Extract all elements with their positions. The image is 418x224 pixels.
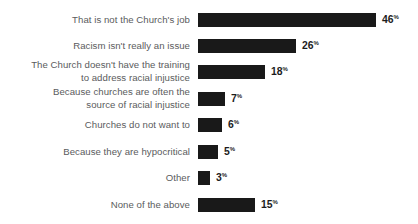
bar [198, 171, 210, 185]
bar-zone: 7% [198, 92, 242, 106]
bar-row: Because churches are often the source of… [0, 92, 418, 106]
bar-value-number: 26 [302, 40, 314, 51]
bar-row: Because they are hypocritical5% [0, 145, 418, 159]
percent-sign: % [314, 40, 319, 46]
bar-value-number: 46 [382, 14, 394, 25]
bar [198, 13, 376, 27]
percent-sign: % [394, 14, 399, 20]
bar-zone: 15% [198, 198, 278, 212]
bar-row: That is not the Church's job46% [0, 13, 418, 27]
bar-value-label: 5% [224, 145, 235, 159]
bar-value-number: 18 [271, 66, 283, 77]
bar-zone: 5% [198, 145, 235, 159]
bar-value-label: 3% [216, 171, 227, 185]
bar-row: Other3% [0, 171, 418, 185]
bar-value-number: 15 [261, 199, 273, 210]
bar-category-label: Racism isn't really an issue [0, 39, 190, 53]
bar-zone: 6% [198, 118, 239, 132]
bar-category-label: That is not the Church's job [0, 13, 190, 27]
bar-row: Churches do not want to6% [0, 118, 418, 132]
bar [198, 92, 225, 106]
percent-sign: % [283, 66, 288, 72]
bar-row: Racism isn't really an issue26% [0, 39, 418, 53]
bar-zone: 18% [198, 65, 288, 79]
bar-value-label: 7% [231, 92, 242, 106]
bar-value-label: 6% [228, 118, 239, 132]
percent-sign: % [234, 119, 239, 125]
bar [198, 65, 265, 79]
bar-row: None of the above15% [0, 198, 418, 212]
bar-value-label: 18% [271, 65, 288, 79]
bar [198, 39, 296, 53]
bar-category-label: Because they are hypocritical [0, 145, 190, 159]
bar-category-label: The Church doesn't have the training to … [0, 59, 190, 85]
bar-category-label: Churches do not want to [0, 118, 190, 132]
bar-category-label: Other [0, 171, 190, 185]
bar-value-label: 15% [261, 198, 278, 212]
bar-row: The Church doesn't have the training to … [0, 65, 418, 79]
bar-zone: 46% [198, 13, 399, 27]
bar-value-label: 26% [302, 39, 319, 53]
bar-zone: 3% [198, 171, 227, 185]
bar [198, 118, 222, 132]
percent-sign: % [237, 93, 242, 99]
percent-sign: % [230, 146, 235, 152]
bar-chart: That is not the Church's job46%Racism is… [0, 0, 418, 224]
bar-zone: 26% [198, 39, 319, 53]
bar [198, 145, 218, 159]
bar-category-label: None of the above [0, 198, 190, 212]
bar [198, 198, 255, 212]
bar-value-label: 46% [382, 13, 399, 27]
percent-sign: % [273, 199, 278, 205]
bar-category-label: Because churches are often the source of… [0, 86, 190, 112]
percent-sign: % [222, 172, 227, 178]
